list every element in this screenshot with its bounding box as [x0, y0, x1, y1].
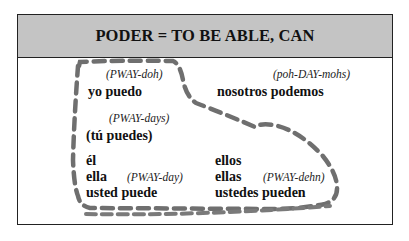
- pronoun-ellos: ellos: [215, 153, 241, 169]
- yo-pronunciation: (PWAY-doh): [106, 68, 162, 80]
- pronoun-ella: ella: [86, 169, 107, 185]
- conjugation-card: PODER = TO BE ABLE, CAN: [17, 14, 393, 225]
- nosotros-form: nosotros podemos: [217, 84, 324, 100]
- yo-form: yo puedo: [88, 84, 142, 100]
- tu-form: (tú puedes): [86, 128, 153, 144]
- third-singular-pronunciation: (PWAY-day): [127, 171, 183, 183]
- card-header: PODER = TO BE ABLE, CAN: [18, 15, 392, 58]
- verb-title: PODER = TO BE ABLE, CAN: [95, 26, 314, 46]
- third-plural-pronunciation: (PWAY-dehn): [263, 171, 325, 183]
- nosotros-pronunciation: (poh-DAY-mohs): [273, 68, 350, 80]
- tu-pronunciation: (PWAY-days): [109, 112, 169, 124]
- pronoun-ellas: ellas: [215, 169, 241, 185]
- ustedes-form: ustedes pueden: [215, 185, 306, 201]
- pronoun-el: él: [86, 153, 96, 169]
- usted-form: usted puede: [86, 185, 157, 201]
